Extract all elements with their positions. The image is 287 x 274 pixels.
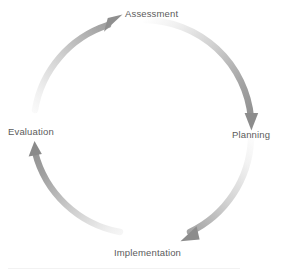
stage-label-implementation: Implementation — [114, 247, 181, 258]
arrow-assessment-to-planning — [145, 20, 258, 131]
stage-label-assessment: Assessment — [125, 8, 178, 19]
stage-label-evaluation: Evaluation — [8, 126, 54, 137]
arrow-implementation-to-evaluation — [29, 141, 120, 232]
arrow-planning-to-implementation — [181, 140, 252, 241]
stage-label-planning: Planning — [232, 129, 270, 140]
arrow-evaluation-to-assessment — [35, 15, 123, 111]
cycle-diagram: Assessment Planning Implementation Evalu… — [0, 0, 287, 274]
page-scan-line — [8, 268, 240, 269]
